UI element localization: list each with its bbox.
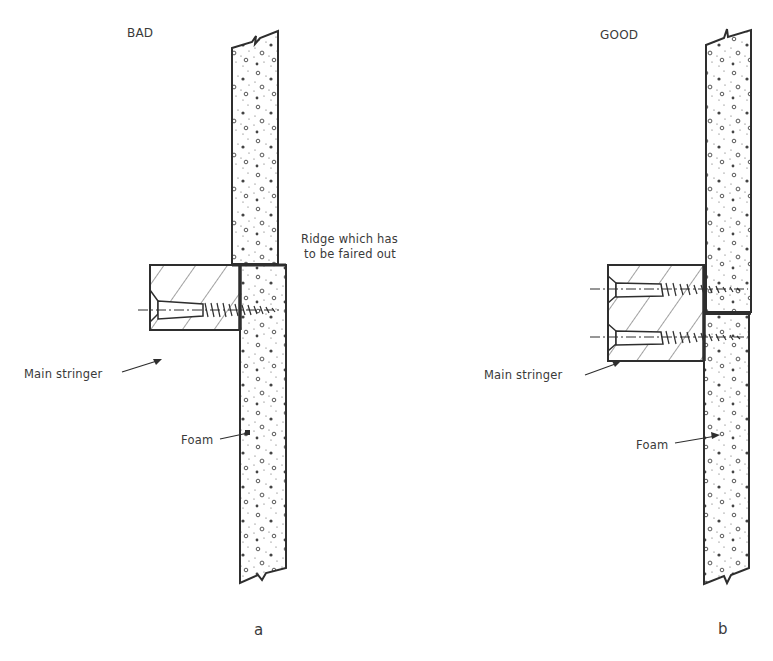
ridge-label-line1: Ridge which has <box>301 232 398 246</box>
panel-b-letter: b <box>718 620 728 638</box>
stringer-leader <box>122 360 160 372</box>
panel-a-drawing <box>122 31 286 583</box>
lower-screw-hole <box>616 331 663 345</box>
upper-foam-panel <box>232 31 278 264</box>
panel-b-drawing <box>585 29 751 584</box>
foam-arrow-icon <box>245 430 250 435</box>
upper-screw-hole <box>616 283 663 297</box>
panel-a-stringer-label: Main stringer <box>24 367 103 381</box>
panel-a-letter: a <box>254 621 263 639</box>
panel-a-title: BAD <box>127 26 153 40</box>
diagram-canvas <box>0 0 773 661</box>
stringer-leader <box>585 363 618 375</box>
lower-foam-panel <box>704 314 749 584</box>
stringer-block <box>150 265 240 330</box>
stringer-arrow-icon <box>612 361 621 367</box>
panel-b-title: GOOD <box>600 28 638 42</box>
upper-foam-panel <box>706 29 751 312</box>
stringer-block <box>608 265 704 361</box>
panel-b-foam-label: Foam <box>636 438 668 452</box>
ridge-label-line2: to be faired out <box>304 247 396 261</box>
panel-a-foam-label: Foam <box>181 433 213 447</box>
panel-b-stringer-label: Main stringer <box>484 368 563 382</box>
